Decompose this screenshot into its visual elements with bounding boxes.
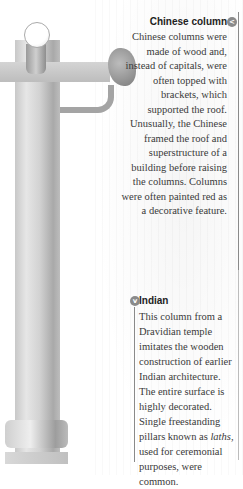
- column-capital: [26, 44, 46, 74]
- indian-column-caption: v Indian This column from a Dravidian te…: [139, 295, 239, 489]
- chinese-column-caption: < Chinese column Chinese columns were ma…: [119, 16, 237, 219]
- chinese-callout-rule: [238, 12, 239, 270]
- caption-term: laths: [210, 431, 230, 442]
- chevron-down-icon: v: [130, 296, 140, 306]
- column-orb: [24, 22, 50, 48]
- chevron-left-icon: <: [227, 17, 237, 27]
- indian-callout-rule: [134, 307, 135, 462]
- caption-body: Chinese columns were made of wood and, i…: [119, 30, 237, 219]
- caption-body: This column from a Dravidian temple imit…: [139, 309, 239, 489]
- column-base: [5, 420, 68, 448]
- caption-title: Chinese column: [119, 16, 237, 28]
- column-plinth: [5, 452, 68, 464]
- caption-text: This column from a Dravidian temple imit…: [139, 311, 232, 442]
- column-shaft: [15, 40, 60, 460]
- column-bracket: [60, 85, 114, 113]
- caption-title: Indian: [139, 295, 239, 307]
- column-crossbeam: [0, 62, 110, 82]
